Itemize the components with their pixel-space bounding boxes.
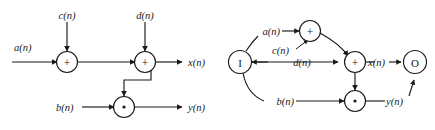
right-dependence-graph: I + + O a(n) c(n) d(n) b(n) x(n) y(n) (229, 21, 427, 112)
edge-top-adder-to-mid-adder (320, 33, 348, 56)
right-top-adder-glyph: + (307, 26, 314, 38)
left-adder2-glyph: + (142, 57, 149, 69)
left-label-x: x(n) (187, 57, 205, 69)
edge-in-to-b (243, 73, 264, 101)
left-label-d: d(n) (136, 10, 154, 22)
right-multiplier-glyph (353, 99, 356, 102)
left-block-diagram: + + c(n) d(n) a(n) b(n) x(n) y(n) (12, 10, 205, 118)
right-label-b: b(n) (277, 96, 295, 108)
left-label-b: b(n) (56, 102, 74, 114)
right-output-node-glyph: O (411, 57, 419, 69)
left-label-y: y(n) (187, 102, 205, 114)
left-multiplier-glyph (122, 105, 125, 108)
right-label-c: c(n) (272, 45, 289, 57)
edge-in-to-a (246, 36, 258, 51)
left-label-c: c(n) (59, 10, 76, 22)
right-label-a: a(n) (263, 26, 281, 38)
right-label-d: d(n) (293, 57, 311, 69)
figure-root: + + c(n) d(n) a(n) b(n) x(n) y(n) (0, 0, 435, 130)
signal-flow-figure: + + c(n) d(n) a(n) b(n) x(n) y(n) (0, 0, 435, 130)
right-mid-adder-glyph: + (352, 57, 359, 69)
right-input-node-glyph: I (238, 57, 242, 69)
left-adder1-glyph: + (64, 57, 71, 69)
left-label-a: a(n) (14, 42, 32, 54)
edge-y-to-out (409, 80, 414, 96)
right-label-y: y(n) (385, 96, 403, 108)
right-label-x: x(n) (367, 57, 385, 69)
